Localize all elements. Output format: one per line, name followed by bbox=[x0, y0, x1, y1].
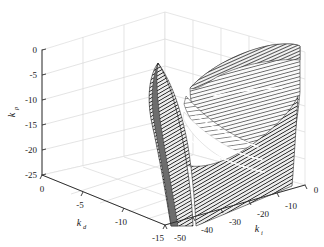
y-tick-label: 0 bbox=[314, 185, 319, 195]
z-axis-title: k p bbox=[6, 106, 19, 117]
y-tick-label: -40 bbox=[201, 225, 213, 235]
z-tick-label: -25 bbox=[25, 170, 37, 180]
y-axis-title-sub: i bbox=[261, 229, 263, 236]
y-tick-label: -10 bbox=[285, 201, 297, 211]
z-axis-title-sub: p bbox=[12, 106, 19, 111]
z-tick-label: -5 bbox=[30, 70, 38, 80]
y-axis-title: k i bbox=[255, 223, 263, 236]
y-axis-title-text: k bbox=[255, 223, 260, 234]
x-tick-label: 0 bbox=[40, 184, 45, 194]
surface-plot-3d: 0 -5 -10 -15 -20 -25 0 -5 -10 -15 bbox=[0, 0, 324, 247]
z-tick-label: -20 bbox=[25, 145, 37, 155]
z-tick-labels: 0 -5 -10 -15 -20 -25 bbox=[25, 45, 38, 180]
x-tick-label: -10 bbox=[115, 217, 127, 227]
z-tick-label: -10 bbox=[25, 95, 37, 105]
z-tick-label: -15 bbox=[25, 120, 37, 130]
y-tick-label: -30 bbox=[229, 217, 241, 227]
x-tick-label: -5 bbox=[76, 200, 84, 210]
x-axis-title-text: k bbox=[77, 217, 82, 228]
y-tick-label: -50 bbox=[174, 233, 186, 243]
y-tick-label: -20 bbox=[257, 209, 269, 219]
x-axis-title-sub: d bbox=[83, 223, 87, 230]
figure-container: 0 -5 -10 -15 -20 -25 0 -5 -10 -15 bbox=[0, 0, 324, 247]
x-axis-title: k d bbox=[77, 217, 87, 230]
x-tick-label: -15 bbox=[152, 233, 164, 243]
z-tick-label: 0 bbox=[33, 45, 38, 55]
grid-back-left bbox=[42, 12, 165, 175]
z-axis-title-text: k bbox=[6, 112, 17, 117]
